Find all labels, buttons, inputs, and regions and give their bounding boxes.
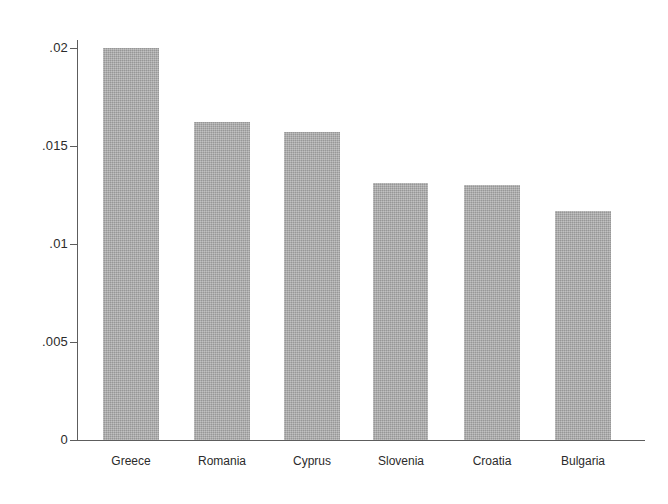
y-tick-label-wrap-0.02: .02	[0, 41, 68, 55]
y-tick-label-wrap-0.005: .005	[0, 335, 68, 349]
x-axis-label-cyprus: Cyprus	[272, 455, 352, 468]
plot-area: .02 .015 .01 .005 0 Greece Romania Cypru…	[0, 0, 668, 504]
x-axis-label-greece: Greece	[91, 455, 171, 468]
y-tick-mark-0.015	[70, 146, 78, 147]
bar-chart-figure: .02 .015 .01 .005 0 Greece Romania Cypru…	[0, 0, 668, 504]
y-tick-mark-0.005	[70, 342, 78, 343]
bar-bulgaria	[555, 211, 611, 440]
x-axis-label-slovenia: Slovenia	[361, 455, 441, 468]
x-axis-line	[77, 440, 645, 441]
y-tick-label-0.005: .005	[0, 335, 68, 348]
x-axis-label-croatia: Croatia	[452, 455, 532, 468]
x-axis-label-bulgaria: Bulgaria	[543, 455, 623, 468]
x-axis-label-romania: Romania	[182, 455, 262, 468]
y-tick-label-0: 0	[0, 433, 68, 446]
y-axis-line	[77, 40, 78, 441]
y-tick-label-0.01: .01	[0, 237, 68, 250]
bar-slovenia	[373, 183, 428, 440]
y-tick-mark-0	[70, 440, 78, 441]
y-tick-label-wrap-0: 0	[0, 433, 68, 447]
y-tick-mark-0.01	[70, 244, 78, 245]
y-tick-label-0.015: .015	[0, 139, 68, 152]
y-tick-label-0.02: .02	[0, 41, 68, 54]
bar-romania	[194, 122, 250, 440]
bar-croatia	[464, 185, 520, 440]
bar-greece	[103, 48, 159, 440]
y-tick-label-wrap-0.01: .01	[0, 237, 68, 251]
y-tick-label-wrap-0.015: .015	[0, 139, 68, 153]
y-tick-mark-0.02	[70, 48, 78, 49]
bar-cyprus	[284, 132, 340, 440]
